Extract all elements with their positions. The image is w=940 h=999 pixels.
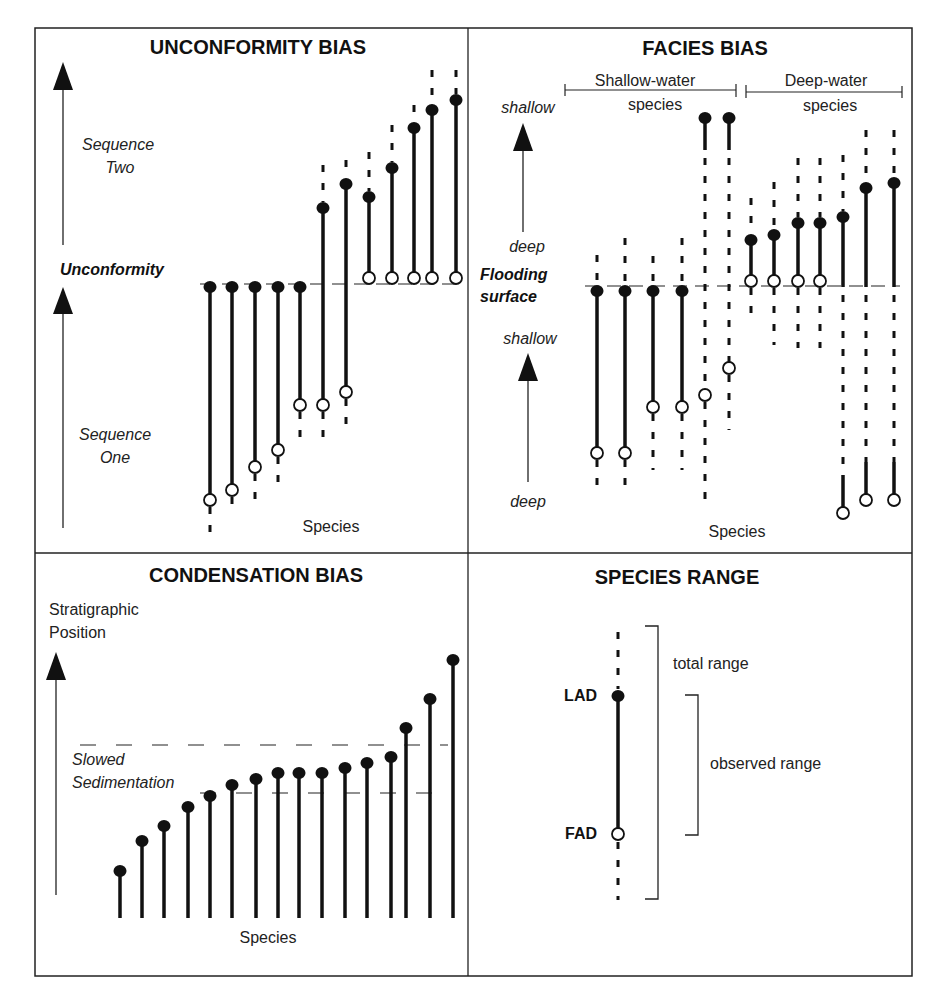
lad-marker-icon xyxy=(591,285,604,297)
species-ranges xyxy=(204,70,463,540)
lad-marker-icon xyxy=(792,217,805,229)
lad-marker-icon xyxy=(647,285,660,297)
lad-marker-icon xyxy=(400,722,413,734)
fad-marker-icon xyxy=(619,447,631,459)
lad-marker-icon xyxy=(860,182,873,194)
arrow-up-icon xyxy=(53,287,73,528)
species-range xyxy=(699,112,712,510)
axis-label-deep-lower: deep xyxy=(510,493,546,510)
fad-marker-icon xyxy=(837,507,849,519)
panel-facies-bias: FACIES BIAS Shallow-water species Deep-w… xyxy=(480,37,902,540)
lad-marker-icon xyxy=(837,211,850,223)
fad-marker-icon xyxy=(768,275,780,287)
lad-marker-icon xyxy=(114,865,127,877)
zone-label-line2: Sedimentation xyxy=(72,774,174,791)
axis-label-line1: Stratigraphic xyxy=(49,601,139,618)
species-range xyxy=(317,165,330,445)
lad-marker-icon xyxy=(363,191,376,203)
arrow-up-icon xyxy=(518,353,538,482)
boundary-label-flooding-line1: Flooding xyxy=(480,266,548,283)
fad-marker-icon xyxy=(272,444,284,456)
lad-marker-icon xyxy=(158,820,171,832)
axis-label-sequence-one-line1: Sequence xyxy=(79,426,151,443)
fad-marker-icon xyxy=(792,275,804,287)
group-label-shallow-water-line2: species xyxy=(628,96,682,113)
panel-title: SPECIES RANGE xyxy=(595,566,759,588)
species-range xyxy=(363,152,376,284)
species-range xyxy=(272,281,285,485)
species-range xyxy=(400,722,413,918)
lad-marker-icon xyxy=(888,177,901,189)
lad-marker-icon xyxy=(339,762,352,774)
group-label-deep-water-line2: species xyxy=(803,97,857,114)
zone-label-line1: Slowed xyxy=(72,751,126,768)
lad-marker-icon xyxy=(316,767,329,779)
lad-marker-icon xyxy=(204,790,217,802)
lad-marker-icon xyxy=(361,757,374,769)
lad-marker-icon xyxy=(250,773,263,785)
observed-range-label: observed range xyxy=(710,755,821,772)
species-range xyxy=(204,790,217,918)
lad-marker-icon xyxy=(136,835,149,847)
species-range xyxy=(676,238,689,470)
species-range xyxy=(316,767,329,918)
fad-marker-icon xyxy=(888,494,900,506)
species-range xyxy=(768,182,781,345)
x-axis-label: Species xyxy=(303,518,360,535)
species-ranges xyxy=(591,112,901,519)
lad-marker-icon xyxy=(814,217,827,229)
species-range xyxy=(591,255,604,495)
lad-marker-icon xyxy=(226,281,239,293)
panel-species-range: SPECIES RANGE LAD FAD total range observ… xyxy=(564,566,821,900)
total-range-label: total range xyxy=(673,655,749,672)
axis-label-shallow-lower: shallow xyxy=(503,330,558,347)
lad-marker-icon xyxy=(386,162,399,174)
lad-marker-icon xyxy=(768,229,781,241)
fad-marker-icon xyxy=(340,386,352,398)
panel-unconformity-bias: UNCONFORMITY BIAS Sequence Two Unconform… xyxy=(53,36,463,540)
figure-frame xyxy=(35,28,912,976)
arrow-up-icon xyxy=(46,652,66,895)
lad-marker-icon xyxy=(426,104,439,116)
lad-marker-icon xyxy=(619,285,632,297)
lad-marker-icon xyxy=(249,281,262,293)
lad-marker-icon xyxy=(317,202,330,214)
lad-marker-icon xyxy=(272,767,285,779)
fad-label: FAD xyxy=(565,825,597,842)
fad-marker-icon xyxy=(723,362,735,374)
species-range xyxy=(426,70,439,284)
lad-marker-icon xyxy=(447,654,460,666)
panel-condensation-bias: CONDENSATION BIAS Stratigraphic Position… xyxy=(46,564,460,946)
lad-label: LAD xyxy=(564,687,597,704)
species-range xyxy=(361,757,374,918)
lad-marker-icon xyxy=(450,94,463,106)
fad-marker-icon xyxy=(386,272,398,284)
species-range xyxy=(424,693,437,918)
species-range xyxy=(340,160,353,432)
species-range xyxy=(293,767,306,918)
species-range xyxy=(136,835,149,918)
fad-marker-icon xyxy=(294,399,306,411)
fad-marker-icon xyxy=(249,461,261,473)
lad-marker-icon xyxy=(424,693,437,705)
fad-marker-icon xyxy=(699,389,711,401)
observed-range-bracket xyxy=(685,695,698,835)
x-axis-label: Species xyxy=(709,523,766,540)
lad-marker-icon xyxy=(204,281,217,293)
fad-marker-icon xyxy=(426,272,438,284)
lad-marker-icon xyxy=(612,690,625,702)
lad-marker-icon xyxy=(676,285,689,297)
species-range xyxy=(447,654,460,918)
lad-marker-icon xyxy=(226,779,239,791)
axis-label-sequence-two-line2: Two xyxy=(105,159,134,176)
fad-marker-icon xyxy=(408,272,420,284)
axis-label-sequence-two-line1: Sequence xyxy=(82,136,154,153)
fad-marker-icon xyxy=(450,272,462,284)
species-range xyxy=(619,238,632,492)
species-range xyxy=(250,773,263,918)
species-range xyxy=(226,281,239,515)
species-range xyxy=(408,105,421,284)
panel-title: UNCONFORMITY BIAS xyxy=(150,36,366,58)
figure-canvas: UNCONFORMITY BIAS Sequence Two Unconform… xyxy=(0,0,940,999)
panel-title: FACIES BIAS xyxy=(642,37,768,59)
